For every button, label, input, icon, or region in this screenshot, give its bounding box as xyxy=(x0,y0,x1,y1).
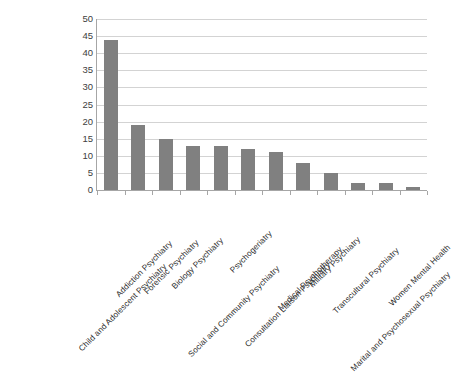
x-tick-mark xyxy=(345,191,346,195)
bar xyxy=(351,183,365,190)
bar xyxy=(269,152,283,190)
bar xyxy=(131,125,145,190)
y-axis-tick-labels: 50454035302520151050 xyxy=(60,19,93,190)
y-tick-label: 25 xyxy=(65,100,93,110)
bar xyxy=(214,146,228,190)
y-tick-label: 20 xyxy=(65,117,93,127)
plot-area xyxy=(97,19,427,190)
x-axis-label: Social and Community Psychiatry xyxy=(186,264,281,359)
gridline-10 xyxy=(97,156,427,157)
gridline-25 xyxy=(97,105,427,106)
y-tick-label: 50 xyxy=(65,14,93,24)
bar xyxy=(296,163,310,190)
y-tick-label: 35 xyxy=(65,66,93,76)
y-tick-label: 15 xyxy=(65,134,93,144)
y-tick-label: 40 xyxy=(65,48,93,58)
gridline-20 xyxy=(97,122,427,123)
x-tick-mark xyxy=(317,191,318,195)
bar xyxy=(406,187,420,190)
y-tick-label: 45 xyxy=(65,31,93,41)
x-tick-mark xyxy=(97,191,98,195)
x-tick-mark xyxy=(235,191,236,195)
x-tick-mark xyxy=(427,191,428,195)
x-axis-label: Child and Adolescent Psychiatry xyxy=(77,262,168,353)
x-tick-mark xyxy=(400,191,401,195)
x-tick-mark xyxy=(207,191,208,195)
bar xyxy=(379,183,393,190)
gridline-5 xyxy=(97,173,427,174)
x-tick-mark xyxy=(125,191,126,195)
gridline-15 xyxy=(97,139,427,140)
x-tick-mark xyxy=(290,191,291,195)
gridline-45 xyxy=(97,36,427,37)
gridline-35 xyxy=(97,70,427,71)
x-tick-mark xyxy=(262,191,263,195)
x-axis-label: Military Psychiatry xyxy=(308,235,362,289)
gridline-50 xyxy=(97,19,427,20)
gridline-30 xyxy=(97,87,427,88)
bar xyxy=(324,173,338,190)
y-tick-label: 10 xyxy=(65,151,93,161)
x-axis-category-labels: Child and Adolescent PsychiatryAddiction… xyxy=(0,191,459,335)
x-tick-mark xyxy=(180,191,181,195)
bar xyxy=(241,149,255,190)
bar xyxy=(159,139,173,190)
bar xyxy=(186,146,200,190)
y-tick-label: 5 xyxy=(65,168,93,178)
x-tick-mark xyxy=(372,191,373,195)
gridline-40 xyxy=(97,53,427,54)
y-tick-label: 30 xyxy=(65,83,93,93)
x-axis-label: Psychogeriatry xyxy=(228,229,274,275)
x-tick-mark xyxy=(152,191,153,195)
bar xyxy=(104,40,118,190)
